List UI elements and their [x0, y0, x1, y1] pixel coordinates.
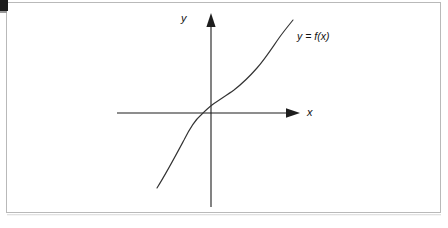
x-axis-label: x — [307, 107, 313, 118]
y-axis-arrowhead — [206, 13, 215, 27]
curve-equation-label: y = f(x) — [297, 31, 329, 42]
function-curve — [157, 20, 293, 188]
screenshot-root: y x y = f(x) — [0, 0, 448, 228]
function-graph-figure — [0, 0, 448, 228]
x-axis-arrowhead — [286, 108, 300, 118]
y-axis-label: y — [181, 13, 187, 24]
